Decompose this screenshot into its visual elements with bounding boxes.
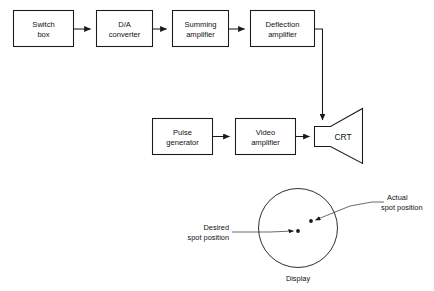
- switch-box-rect: [14, 11, 74, 47]
- desired-spot: [296, 229, 300, 233]
- block-deflection-amplifier: Deflection amplifier: [251, 11, 315, 47]
- summing-amplifier-label-line1: Summing: [184, 20, 216, 29]
- display-scope: Desired spot position Actual spot positi…: [188, 188, 423, 283]
- deflection-amplifier-label-line2: amplifier: [268, 30, 297, 39]
- block-summing-amplifier: Summing amplifier: [173, 11, 229, 47]
- actual-spot: [309, 219, 313, 223]
- block-video-amplifier: Video amplifier: [236, 119, 296, 155]
- crt-label: CRT: [334, 132, 351, 142]
- da-converter-label-line2: converter: [109, 30, 141, 39]
- summing-amplifier-rect: [173, 11, 229, 47]
- actual-spot-label-line1: Actual: [387, 193, 408, 202]
- block-pulse-generator: Pulse generator: [153, 119, 213, 155]
- block-diagram-figure: Switch box D/A converter Summing amplifi…: [0, 0, 434, 291]
- video-amplifier-label-line2: amplifier: [251, 138, 280, 147]
- switch-box-label-line1: Switch: [32, 20, 54, 29]
- deflection-amplifier-label-line1: Deflection: [266, 20, 300, 29]
- pulse-generator-label-line2: generator: [166, 138, 199, 147]
- arrow-deflection-to-crt: [315, 29, 323, 120]
- da-converter-label-line1: D/A: [118, 20, 132, 29]
- video-amplifier-label-line1: Video: [256, 128, 275, 137]
- crt-symbol: CRT: [315, 109, 363, 164]
- diagram-canvas: Switch box D/A converter Summing amplifi…: [0, 0, 434, 291]
- pulse-generator-label-line1: Pulse: [173, 128, 192, 137]
- display-caption: Display: [286, 274, 311, 283]
- summing-amplifier-label-line2: amplifier: [186, 30, 215, 39]
- video-amplifier-rect: [236, 119, 296, 155]
- block-switch-box: Switch box: [14, 11, 74, 47]
- switch-box-label-line2: box: [37, 30, 49, 39]
- da-converter-rect: [97, 11, 153, 47]
- desired-spot-label-line2: spot position: [188, 233, 230, 242]
- pulse-generator-rect: [153, 119, 213, 155]
- desired-spot-label-line1: Desired: [204, 223, 229, 232]
- actual-spot-label-line2: spot position: [381, 203, 423, 212]
- block-da-converter: D/A converter: [97, 11, 153, 47]
- display-circle: [259, 189, 338, 268]
- deflection-amplifier-rect: [251, 11, 315, 47]
- connector-deflection-to-crt: [315, 29, 323, 120]
